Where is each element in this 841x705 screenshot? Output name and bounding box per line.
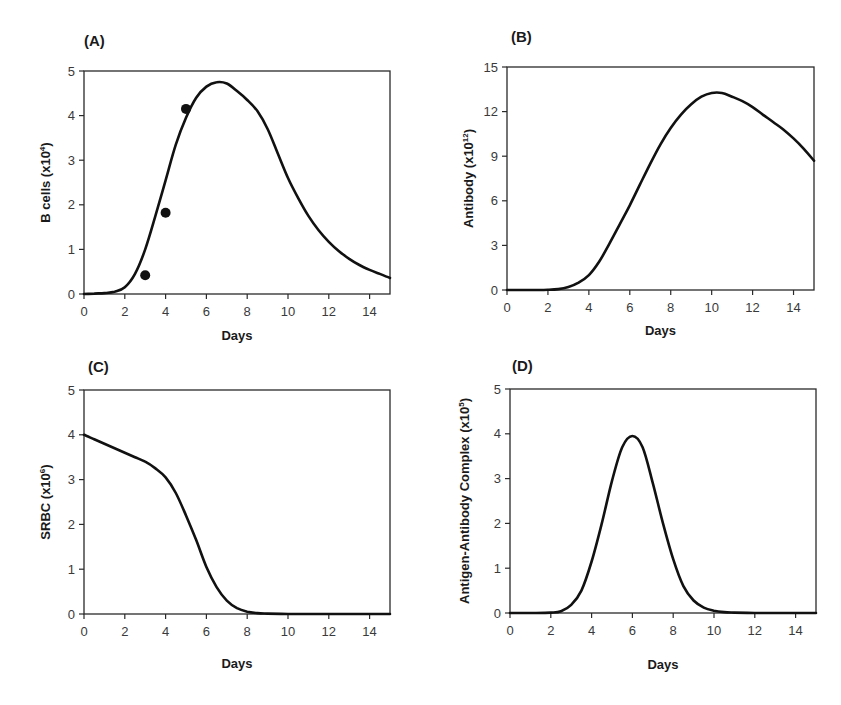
x-tick-label: 6 [203,624,210,639]
x-tick-label: 4 [162,304,169,319]
x-tick-label: 14 [362,304,376,319]
y-tick-label: 3 [68,153,75,168]
panel-c-label: (C) [88,358,109,375]
panel-b-y-axis-title: Antibody (x1012) [461,129,476,228]
x-tick-label: 8 [667,300,674,315]
y-tick-label: 1 [494,561,501,576]
x-tick-label: 4 [162,624,169,639]
data-line [84,82,390,294]
x-tick-label: 10 [704,300,718,315]
data-point [181,104,191,114]
data-point [161,208,171,218]
y-tick-label: 15 [484,60,498,75]
x-tick-label: 0 [80,624,87,639]
panel-a-y-axis-title: B cells (x104) [38,142,53,222]
y-tick-label: 3 [68,472,75,487]
data-line [507,93,814,290]
y-tick-label: 12 [484,104,498,119]
x-tick-label: 6 [203,304,210,319]
plot-frame [510,389,816,613]
y-tick-label: 1 [68,562,75,577]
data-line [84,435,390,614]
x-tick-label: 8 [244,304,251,319]
x-tick-label: 4 [585,300,592,315]
panel-d-y-axis-title: Antigen-Antibody Complex (x105) [457,398,472,604]
panel-a-label: (A) [84,32,105,49]
y-tick-label: 4 [494,426,501,441]
y-tick-label: 3 [491,238,498,253]
x-tick-label: 8 [670,623,677,638]
y-tick-label: 0 [68,287,75,302]
x-tick-label: 14 [786,300,800,315]
panel-c: (C) 02468101214012345 Days SRBC (x106) [38,358,390,671]
x-tick-label: 4 [588,623,595,638]
panel-d-plot: 02468101214012345 [494,382,816,639]
y-tick-label: 2 [494,516,501,531]
y-tick-label: 6 [491,193,498,208]
plot-frame [507,67,814,290]
panel-a-x-axis-title: Days [221,328,252,343]
data-line [510,436,816,613]
panel-b-plot: 0246810121403691215 [484,60,814,316]
panel-a: (A) 02468101214012345 Days B cells (x104… [38,32,390,343]
y-tick-label: 5 [68,64,75,79]
data-point [140,270,150,280]
y-tick-label: 0 [491,283,498,298]
panel-b: (B) 0246810121403691215 Days Antibody (x… [461,28,814,338]
x-tick-label: 10 [281,304,295,319]
x-tick-label: 6 [629,623,636,638]
x-tick-label: 0 [503,300,510,315]
x-tick-label: 2 [121,304,128,319]
y-tick-label: 4 [68,108,75,123]
x-tick-label: 12 [322,304,336,319]
x-tick-label: 2 [121,624,128,639]
panel-c-plot: 02468101214012345 [68,383,390,640]
x-tick-label: 6 [626,300,633,315]
y-tick-label: 1 [68,242,75,257]
y-tick-label: 3 [494,471,501,486]
x-tick-label: 12 [322,624,336,639]
panel-c-x-axis-title: Days [221,656,252,671]
panel-a-plot: 02468101214012345 [68,64,390,320]
panel-c-y-axis-title: SRBC (x106) [38,464,53,539]
y-tick-label: 5 [68,383,75,398]
y-tick-label: 0 [494,606,501,621]
x-tick-label: 8 [244,624,251,639]
x-tick-label: 12 [745,300,759,315]
y-tick-label: 4 [68,427,75,442]
x-tick-label: 10 [281,624,295,639]
panel-d-label: (D) [512,357,533,374]
panel-b-x-axis-title: Days [645,323,676,338]
x-tick-label: 10 [707,623,721,638]
x-tick-label: 2 [547,623,554,638]
y-tick-label: 9 [491,149,498,164]
panel-b-label: (B) [511,28,532,45]
plot-frame [84,390,390,614]
plot-frame [84,71,390,294]
y-tick-label: 0 [68,607,75,622]
y-tick-label: 2 [68,197,75,212]
x-tick-label: 0 [506,623,513,638]
y-tick-label: 5 [494,382,501,397]
x-tick-label: 12 [748,623,762,638]
x-tick-label: 14 [788,623,802,638]
x-tick-label: 2 [544,300,551,315]
panel-d: (D) 02468101214012345 Days Antigen-Antib… [457,357,816,672]
y-tick-label: 2 [68,517,75,532]
x-tick-label: 0 [80,304,87,319]
x-tick-label: 14 [362,624,376,639]
panel-d-x-axis-title: Days [647,657,678,672]
figure: (A) 02468101214012345 Days B cells (x104… [0,0,841,705]
